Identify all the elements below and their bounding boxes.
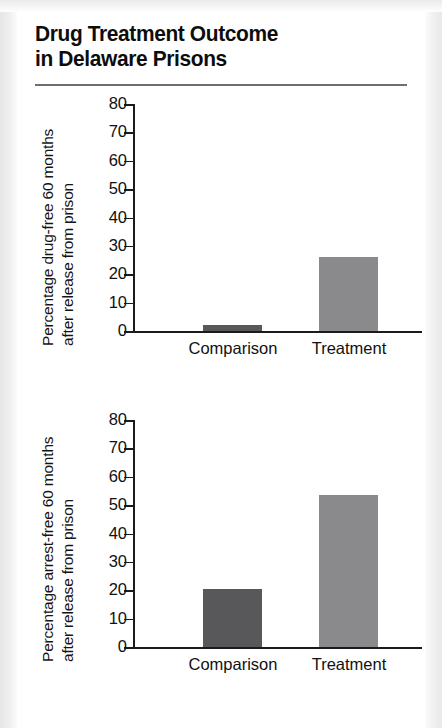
y-axis-label-line-2: after release from prison: [59, 414, 79, 662]
y-tick-label: 80: [109, 93, 127, 113]
y-tick-label: 70: [109, 121, 127, 141]
page-margin-left: [0, 0, 17, 728]
y-tick-label: 10: [109, 292, 127, 312]
y-tick-label: 60: [109, 466, 127, 486]
chart-arrest-free: Percentage arrest-free 60 monthsafter re…: [17, 414, 425, 728]
y-tick-label: 60: [109, 150, 127, 170]
x-axis-label-comparison: Comparison: [177, 654, 289, 674]
title-divider: [35, 84, 407, 86]
y-tick-label: 10: [109, 608, 127, 628]
title-line-2: in Delaware Prisons: [35, 46, 370, 71]
y-tick-label: 20: [109, 579, 127, 599]
page-margin-top: [0, 0, 442, 12]
y-tick-label: 30: [109, 551, 127, 571]
bar-comparison: [203, 325, 262, 331]
y-tick-label: 70: [109, 437, 127, 457]
x-axis-label-treatment: Treatment: [293, 338, 405, 358]
x-axis-label-comparison: Comparison: [177, 338, 289, 358]
bar-treatment: [319, 495, 378, 647]
y-tick-label: 0: [118, 320, 127, 340]
chart-drug-free: Percentage drug-free 60 monthsafter rele…: [17, 98, 425, 398]
y-tick-label: 0: [118, 636, 127, 656]
page-canvas: Drug Treatment Outcome in Delaware Priso…: [0, 0, 442, 728]
y-axis-label-line-2: after release from prison: [59, 98, 79, 346]
page-margin-right: [425, 0, 442, 728]
y-tick-label: 20: [109, 263, 127, 283]
figure-content: Drug Treatment Outcome in Delaware Priso…: [17, 12, 425, 728]
bars-layer: [133, 104, 422, 331]
y-tick-label: 80: [109, 409, 127, 429]
y-tick-label: 40: [109, 523, 127, 543]
x-axis-label-treatment: Treatment: [293, 654, 405, 674]
y-tick-label: 50: [109, 494, 127, 514]
x-axis-line: [133, 647, 422, 649]
title-line-1: Drug Treatment Outcome: [35, 21, 370, 46]
x-axis-line: [133, 331, 422, 333]
y-tick-label: 50: [109, 178, 127, 198]
bars-layer: [133, 420, 422, 647]
y-axis-label-line-1: Percentage drug-free 60 months: [39, 98, 59, 346]
y-axis-label-line-1: Percentage arrest-free 60 months: [39, 414, 59, 662]
y-tick-label: 40: [109, 207, 127, 227]
page-title: Drug Treatment Outcome in Delaware Priso…: [35, 21, 395, 71]
plot-area: 01020304050607080ComparisonTreatment: [133, 420, 425, 653]
plot-area: 01020304050607080ComparisonTreatment: [133, 104, 425, 337]
bar-comparison: [203, 589, 262, 647]
bar-treatment: [319, 257, 378, 331]
y-tick-label: 30: [109, 235, 127, 255]
